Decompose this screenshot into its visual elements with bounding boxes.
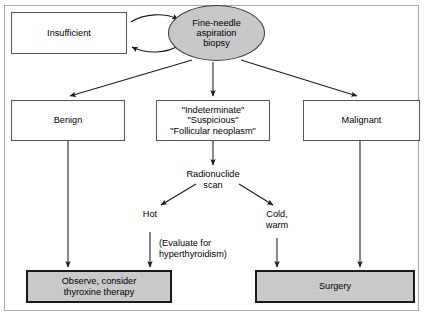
node-fine-needle-aspiration-biopsy[interactable]: Fine-needle aspiration biopsy — [168, 5, 265, 61]
node-surgery-label: Surgery — [319, 281, 351, 291]
node-indeterminate-label: "Indeterminate" "Suspicious" "Follicular… — [170, 105, 256, 136]
label-evaluate-hyperthyroidism: (Evaluate for hyperthyroidism) — [159, 238, 263, 260]
node-insufficient-label: Insufficient — [47, 28, 91, 38]
node-insufficient[interactable]: Insufficient — [11, 12, 127, 54]
node-fna-label: Fine-needle aspiration biopsy — [192, 18, 241, 49]
node-surgery[interactable]: Surgery — [255, 270, 415, 303]
label-cold-warm: Cold, warm — [259, 209, 295, 231]
node-observe-thyroxine[interactable]: Observe, consider thyroxine therapy — [26, 270, 172, 303]
node-indeterminate[interactable]: "Indeterminate" "Suspicious" "Follicular… — [156, 100, 270, 141]
diagram-canvas: Insufficient Fine-needle aspiration biop… — [0, 0, 424, 317]
node-malignant-label: Malignant — [342, 115, 382, 125]
node-malignant[interactable]: Malignant — [303, 100, 420, 141]
label-hot: Hot — [133, 209, 167, 220]
node-observe-label: Observe, consider thyroxine therapy — [62, 276, 137, 297]
node-benign[interactable]: Benign — [11, 100, 125, 141]
label-radionuclide-scan: Radionuclide scan — [178, 169, 248, 191]
node-benign-label: Benign — [54, 115, 83, 125]
